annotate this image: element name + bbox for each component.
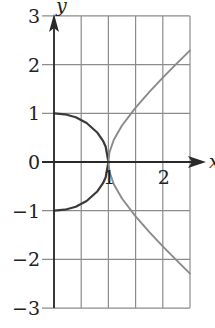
- tick-labels: 3210−1−2−312xy: [12, 0, 215, 319]
- y-tick-label: −3: [12, 297, 40, 319]
- x-axis-label: x: [209, 150, 215, 172]
- x-tick-label: 2: [158, 166, 170, 188]
- y-tick-label: 3: [28, 5, 40, 27]
- lower-branch-curve: [108, 162, 190, 274]
- upper-branch-curve: [108, 50, 190, 162]
- y-tick-label: 0: [28, 151, 40, 173]
- function-graph: 3210−1−2−312xy: [0, 0, 215, 328]
- x-tick-label: 1: [103, 166, 115, 188]
- y-tick-label: 2: [28, 54, 40, 76]
- y-tick-label: −2: [12, 248, 40, 270]
- y-tick-label: −1: [12, 200, 40, 222]
- y-axis-label: y: [55, 0, 67, 16]
- y-tick-label: 1: [28, 102, 40, 124]
